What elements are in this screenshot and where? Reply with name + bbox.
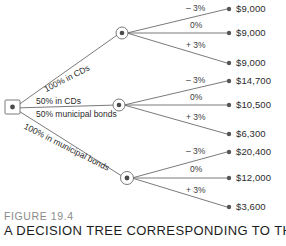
figure-caption: FIGURE 19.4 A DECISION TREE CORRESPONDIN… xyxy=(4,210,284,239)
payoff-cds-plus3: $9,000 xyxy=(236,57,266,68)
rate-label-cds-minus3: – 3% xyxy=(186,3,205,13)
branch-bonds-plus3 xyxy=(132,178,227,207)
branch-mixed-plus3 xyxy=(124,105,227,134)
decision-node-root-center xyxy=(10,105,15,110)
branch-bonds-minus3 xyxy=(132,152,227,178)
payoff-cds-zero: $9,000 xyxy=(236,27,266,38)
rate-label-cds-zero: 0% xyxy=(190,20,202,30)
terminal-dot xyxy=(227,79,231,83)
payoff-bonds-zero: $12,000 xyxy=(236,172,271,183)
chance-node-mixed-center xyxy=(117,103,122,108)
rate-label-bonds-plus3: + 3% xyxy=(186,185,206,195)
terminal-dot xyxy=(227,31,231,35)
rate-label-cds-plus3: + 3% xyxy=(186,40,206,50)
terminal-dot xyxy=(227,7,231,11)
figure-title: A DECISION TREE CORRESPONDING TO THE xyxy=(4,223,284,239)
terminal-dot xyxy=(227,61,231,65)
terminal-dot xyxy=(227,176,231,180)
payoff-bonds-minus3: $20,400 xyxy=(236,146,271,157)
branch-cds-minus3 xyxy=(127,9,227,33)
rate-label-mixed-plus3: + 3% xyxy=(186,112,206,122)
chance-node-bonds-center xyxy=(125,176,130,181)
figure-number: FIGURE 19.4 xyxy=(4,210,284,223)
terminal-dot xyxy=(227,132,231,136)
terminal-dot xyxy=(227,205,231,209)
branch-label-mixed-line2: 50% municipal bonds xyxy=(36,109,117,119)
terminal-dot xyxy=(227,150,231,154)
payoff-cds-minus3: $9,000 xyxy=(236,3,266,14)
branch-mixed-minus3 xyxy=(124,81,227,105)
decision-tree-figure: 100% in CDs 50% in CDs 50% municipal bon… xyxy=(0,0,286,246)
payoff-mixed-zero: $10,500 xyxy=(236,99,271,110)
rate-label-bonds-zero: 0% xyxy=(190,164,202,174)
branch-label-mixed-line1: 50% in CDs xyxy=(36,96,81,106)
chance-node-cds-center xyxy=(120,31,125,36)
rate-label-mixed-minus3: – 3% xyxy=(186,75,205,85)
terminal-dot xyxy=(227,103,231,107)
branch-cds-plus3 xyxy=(127,33,227,63)
payoff-mixed-minus3: $14,700 xyxy=(236,75,271,86)
rate-label-mixed-zero: 0% xyxy=(190,92,202,102)
rate-label-bonds-minus3: – 3% xyxy=(186,146,205,156)
payoff-mixed-plus3: $6,300 xyxy=(236,128,266,139)
